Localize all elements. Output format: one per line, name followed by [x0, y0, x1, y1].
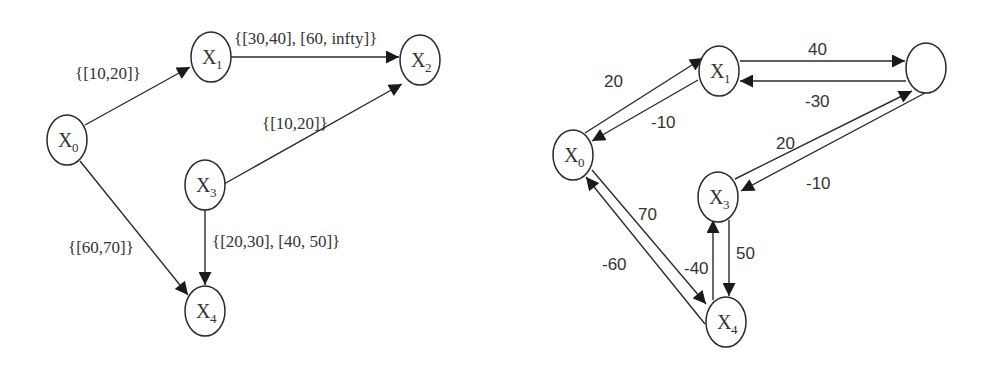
node-x3: X 3 [185, 160, 225, 210]
edge-x0-x4 [592, 170, 706, 304]
node-x1: X 1 [191, 32, 231, 82]
node-x4: X 4 [185, 286, 225, 336]
edge-label-x0-x1: {[10,20]} [75, 64, 141, 83]
edge-label-x0-x1: 20 [604, 72, 623, 91]
svg-text:0: 0 [72, 140, 79, 155]
edge-label-x1-x2: {[30,40], [60, infty]} [234, 29, 377, 48]
svg-text:X: X [202, 46, 217, 68]
svg-text:X: X [564, 144, 579, 166]
edge-label-x1-x2: 40 [808, 40, 827, 59]
svg-text:3: 3 [723, 197, 730, 212]
node-x1: X 1 [699, 46, 739, 96]
edge-x4-x0 [586, 177, 705, 324]
svg-text:1: 1 [216, 57, 223, 72]
node-x2-unlabeled [906, 43, 946, 93]
svg-text:3: 3 [210, 185, 217, 200]
edge-label-x1-x0: -10 [651, 113, 676, 132]
svg-text:4: 4 [731, 322, 738, 337]
right-graph: 20 -10 40 -30 20 -10 70 -60 50 -40 X 0 X… [553, 40, 946, 347]
left-graph: {[10,20]} {[30,40], [60, infty]} {[10,20… [47, 29, 440, 336]
edge-label-x4-x0: -60 [602, 255, 627, 274]
node-x0: X 0 [47, 115, 87, 165]
edge-label-x3-x2: {[10,20]} [262, 114, 328, 133]
edge-x0-x4 [80, 161, 188, 295]
svg-text:1: 1 [724, 71, 731, 86]
svg-text:2: 2 [425, 60, 432, 75]
node-x3: X 3 [698, 172, 738, 222]
svg-text:X: X [411, 49, 426, 71]
edge-label-x2-x1: -30 [805, 92, 830, 111]
edge-label-x0-x4: 70 [638, 205, 657, 224]
edge-label-x3-x4: {[20,30], [40, 50]} [212, 232, 340, 251]
node-x4: X 4 [706, 297, 746, 347]
svg-text:X: X [710, 60, 725, 82]
svg-text:0: 0 [578, 155, 585, 170]
node-x0: X 0 [553, 130, 593, 180]
svg-text:X: X [196, 300, 211, 322]
edge-label-x3-x2: 20 [776, 134, 795, 153]
edge-label-x4-x3: -40 [684, 259, 709, 278]
node-x2: X 2 [400, 35, 440, 85]
svg-text:X: X [717, 311, 732, 333]
edge-label-x0-x4: {[60,70]} [68, 238, 134, 257]
edge-x3-x2 [224, 84, 402, 184]
edge-x2-x3 [741, 93, 925, 191]
svg-text:4: 4 [210, 311, 217, 326]
edge-x0-x1 [585, 58, 703, 133]
svg-text:X: X [709, 186, 724, 208]
svg-text:X: X [196, 174, 211, 196]
svg-text:X: X [58, 129, 73, 151]
edge-label-x2-x3: -10 [806, 174, 831, 193]
edge-label-x3-x4: 50 [736, 244, 755, 263]
diagram-canvas: {[10,20]} {[30,40], [60, infty]} {[10,20… [0, 0, 992, 372]
